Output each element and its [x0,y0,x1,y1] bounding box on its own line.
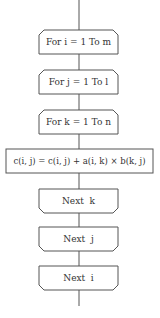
loop-i-start-label: For i = 1 To m [39,30,118,54]
loop-k-end-label: Next k [39,189,118,213]
loop-k-start-label: For k = 1 To n [39,110,118,134]
process-label: c(i, j) = c(i, j) + a(i, k) × b(k, j) [6,149,153,173]
loop-i-end-label: Next i [39,266,118,290]
loop-j-start-label: For j = 1 To l [39,70,118,94]
flowchart-canvas: For i = 1 To m For j = 1 To l For k = 1 … [0,0,160,318]
loop-j-end-label: Next j [39,227,118,251]
